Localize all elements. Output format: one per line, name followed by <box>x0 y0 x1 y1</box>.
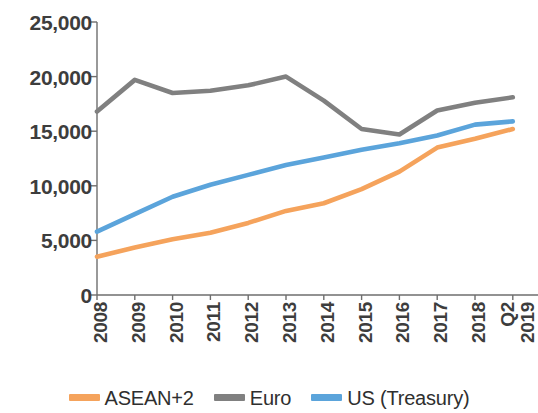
line-chart-figure: 25,00020,00015,00010,0005,0000 200820092… <box>0 0 538 413</box>
legend-item-asean-2[interactable]: ASEAN+2 <box>69 388 194 408</box>
x-axis-label-2014: 2014 <box>318 302 337 343</box>
x-axis-label-2012: 2012 <box>242 302 261 343</box>
series-line-asean-2 <box>97 129 513 257</box>
y-axis-label-15000: 15,000 <box>6 121 92 142</box>
x-axis-label-2013: 2013 <box>280 302 299 343</box>
chart-legend: ASEAN+2EuroUS (Treasury) <box>0 382 538 413</box>
series-group <box>97 77 513 257</box>
x-axis-label-2008: 2008 <box>91 302 110 343</box>
legend-label: Euro <box>250 388 291 408</box>
x-axis-label-2011: 2011 <box>204 302 223 342</box>
legend-item-euro[interactable]: Euro <box>214 388 291 408</box>
plot-svg <box>0 0 538 300</box>
legend-label: ASEAN+2 <box>105 388 194 408</box>
y-axis-label-10000: 10,000 <box>6 175 92 196</box>
plot-area: 25,00020,00015,00010,0005,0000 <box>0 0 538 300</box>
x-axis-label-2009: 2009 <box>129 302 148 343</box>
x-axis-label-2018: 2018 <box>469 302 488 343</box>
y-axis-label-20000: 20,000 <box>6 66 92 87</box>
legend-swatch-icon <box>214 394 245 401</box>
series-line-us-treasury <box>97 121 513 231</box>
legend-item-us-treasury[interactable]: US (Treasury) <box>311 388 469 408</box>
series-line-euro <box>97 77 513 135</box>
legend-swatch-icon <box>311 394 342 401</box>
x-axis-label-2016: 2016 <box>393 302 412 343</box>
x-axis-label-2019: 2019 <box>518 302 537 343</box>
x-axis-label-2017: 2017 <box>431 302 450 343</box>
x-axis-label-2010: 2010 <box>167 302 186 343</box>
legend-swatch-icon <box>69 394 100 401</box>
x-axis-labels: 2008200920102011201220132014201520162017… <box>0 300 538 372</box>
x-axis-label-2015: 2015 <box>356 302 375 343</box>
y-axis-label-25000: 25,000 <box>6 12 92 33</box>
y-axis-label-5000: 5,000 <box>6 230 92 251</box>
x-axis-label-quarter-11: Q2 <box>498 302 517 327</box>
legend-label: US (Treasury) <box>347 388 469 408</box>
